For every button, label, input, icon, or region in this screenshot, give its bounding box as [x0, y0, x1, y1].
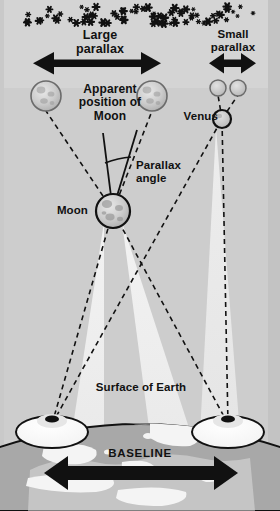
moon-true-position: [96, 194, 130, 228]
star: [150, 21, 156, 26]
star: [58, 12, 63, 16]
star: [172, 7, 176, 11]
star: [144, 4, 152, 10]
star: [236, 15, 239, 18]
sky-band-upper: [0, 0, 280, 88]
apparent-venus-right: [230, 80, 246, 96]
star: [182, 6, 189, 12]
right-edge-strip: [268, 0, 280, 511]
star: [134, 10, 138, 14]
star: [120, 16, 125, 20]
star: [105, 20, 111, 25]
star: [36, 18, 43, 24]
apparent-venus-left: [210, 80, 226, 96]
diagram-canvas: [0, 0, 280, 511]
moon-disc: [96, 194, 130, 228]
star: [211, 14, 216, 18]
star: [178, 11, 184, 16]
star: [213, 18, 218, 23]
star: [231, 10, 235, 13]
star: [68, 18, 73, 22]
star: [192, 8, 196, 11]
star: [26, 12, 31, 16]
apparent-moon-right: [137, 81, 167, 111]
star: [130, 9, 134, 12]
star: [162, 22, 166, 26]
star: [111, 11, 117, 16]
star: [238, 5, 242, 8]
parallax-diagram: Large parallax Small parallax Apparent p…: [0, 0, 280, 511]
apparent-moon-left: [31, 81, 61, 111]
star: [89, 14, 94, 18]
star: [202, 21, 206, 25]
venus-disc: [213, 110, 231, 128]
star: [157, 13, 163, 18]
star: [172, 20, 179, 26]
star: [87, 19, 94, 25]
left-edge-strip: [0, 0, 4, 511]
observer-left-head: [45, 415, 59, 422]
star: [140, 6, 145, 11]
star: [224, 6, 230, 12]
star: [196, 20, 200, 24]
star: [183, 20, 189, 25]
star: [120, 8, 127, 14]
observer-right-head: [221, 415, 235, 422]
venus-true-position: [213, 110, 231, 128]
star: [216, 11, 221, 16]
star: [93, 4, 100, 10]
star: [46, 7, 52, 12]
star: [134, 5, 140, 10]
star: [189, 13, 195, 18]
star: [251, 12, 255, 15]
star: [81, 19, 87, 24]
star: [24, 19, 31, 25]
star: [224, 18, 228, 22]
star: [150, 14, 157, 20]
star: [54, 18, 60, 23]
star: [45, 14, 49, 17]
star: [85, 8, 90, 12]
star: [73, 20, 80, 26]
star: [80, 5, 84, 8]
